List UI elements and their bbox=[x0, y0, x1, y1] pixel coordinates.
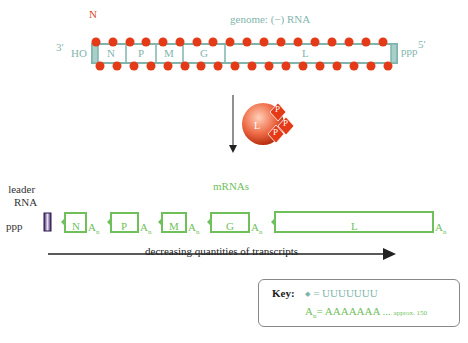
poly-a-tail-g: An bbox=[251, 221, 262, 236]
genome-segment-p: P bbox=[138, 47, 144, 59]
n-protein-label: N bbox=[89, 8, 97, 20]
poly-a-tail-m: An bbox=[188, 221, 199, 236]
phosphoprotein-label-3: P bbox=[273, 127, 278, 137]
three-prime-end: 3' bbox=[56, 41, 63, 53]
genome-segment-l: L bbox=[302, 47, 309, 59]
hydroxyl-group: HO bbox=[71, 47, 87, 59]
genome-segment-g: G bbox=[200, 47, 208, 59]
phosphoprotein-label-1: P bbox=[275, 104, 280, 114]
key-poly-a: An= AAAAAAA ... approx. 150 bbox=[305, 305, 427, 320]
polymerase-core-label: L bbox=[254, 120, 260, 131]
five-prime-end: 5' bbox=[418, 38, 425, 50]
transcript-gradient-label: decreasing quantities of transcripts bbox=[145, 245, 298, 257]
mrna-l: L bbox=[351, 220, 358, 232]
poly-a-tail-n: An bbox=[88, 221, 99, 236]
stop-signal-icon: ◆ bbox=[305, 290, 310, 298]
genome-segment-n: N bbox=[107, 47, 115, 59]
mrna-g: G bbox=[226, 220, 234, 232]
genome-title: genome: (−) RNA bbox=[230, 13, 310, 25]
polymerase-complex bbox=[220, 85, 320, 175]
key-title: Key: bbox=[272, 287, 295, 299]
mrna-diagram bbox=[0, 190, 468, 270]
poly-a-tail-p: An bbox=[140, 221, 151, 236]
key-uridine-signal: ◆ = UUUUUUU bbox=[305, 287, 378, 299]
genome-segment-m: M bbox=[164, 47, 174, 59]
phosphoprotein-label-2: P bbox=[283, 118, 288, 128]
mrna-n: N bbox=[72, 220, 80, 232]
poly-a-tail-l: An bbox=[435, 221, 446, 236]
triphosphate-group: ppp bbox=[401, 45, 418, 57]
mrna-p: P bbox=[121, 220, 127, 232]
mrna-m: M bbox=[169, 220, 179, 232]
